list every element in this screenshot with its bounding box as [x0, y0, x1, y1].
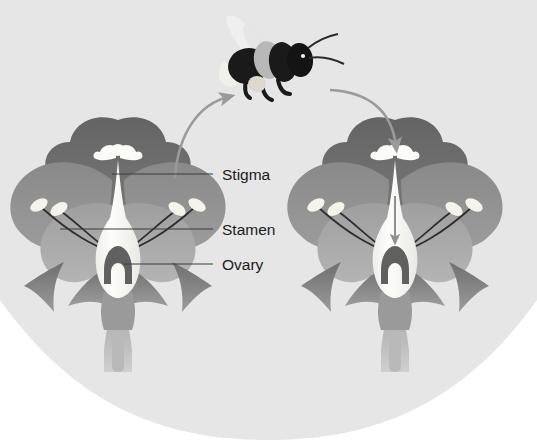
diagram-canvas: Stigma Stamen Ovary [0, 0, 537, 440]
pollination-diagram: Stigma Stamen Ovary [0, 0, 537, 440]
stem-shaft [389, 330, 401, 372]
bee-pollen-basket [248, 76, 266, 92]
label-text-stigma: Stigma [222, 166, 271, 183]
label-text-ovary: Ovary [222, 256, 264, 273]
stem-shaft [112, 330, 124, 372]
bee-eye [301, 54, 305, 58]
stigma-center [111, 144, 125, 156]
label-text-stamen: Stamen [222, 221, 275, 238]
